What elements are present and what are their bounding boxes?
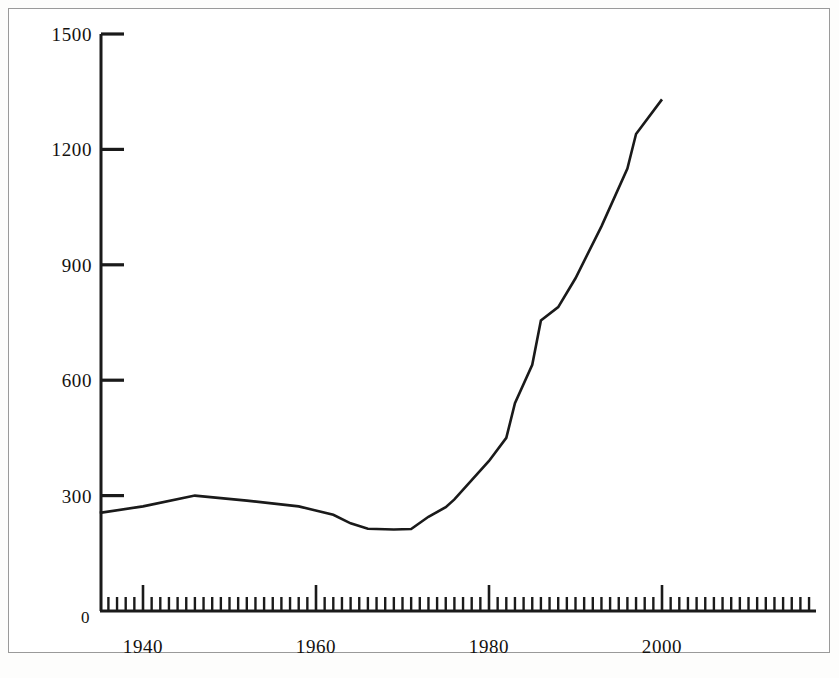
y-axis-tick-labels: 030060090012001500 (52, 24, 92, 627)
x-tick-label-1980: 1980 (469, 636, 509, 657)
chart-page: 030060090012001500 1940196019802000 (0, 0, 839, 678)
data-series-line (100, 99, 662, 529)
y-tick-label-900: 900 (62, 255, 92, 276)
x-tick-label-1960: 1960 (296, 636, 336, 657)
x-tick-label-2000: 2000 (642, 636, 682, 657)
x-axis-ticks (108, 585, 809, 610)
x-axis-tick-labels: 1940196019802000 (123, 636, 682, 657)
y-tick-label-1500: 1500 (52, 24, 92, 45)
y-tick-label-0: 0 (81, 608, 90, 627)
y-tick-label-300: 300 (62, 486, 92, 507)
line-chart: 030060090012001500 1940196019802000 (0, 0, 839, 678)
chart-canvas: 030060090012001500 1940196019802000 (0, 0, 839, 678)
y-axis-ticks (101, 34, 124, 496)
y-tick-label-600: 600 (62, 370, 92, 391)
y-tick-label-1200: 1200 (52, 139, 92, 160)
x-tick-label-1940: 1940 (123, 636, 163, 657)
